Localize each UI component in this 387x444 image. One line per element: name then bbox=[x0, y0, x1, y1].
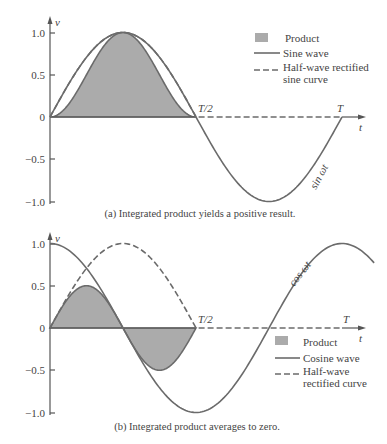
y-tick-0: 0 bbox=[40, 111, 46, 123]
x-tick-full: T bbox=[337, 102, 344, 114]
y-axis-label: v bbox=[55, 16, 60, 28]
x-axis-label: t bbox=[359, 332, 363, 344]
legend-product-label: Product bbox=[303, 336, 337, 348]
product-area bbox=[50, 33, 196, 118]
legend-product-label: Product bbox=[285, 32, 319, 44]
y-tick-0.5: 0.5 bbox=[31, 69, 45, 81]
y-axis-label: v bbox=[55, 232, 60, 244]
legend-dashed-label-2: rectified curve bbox=[303, 377, 367, 389]
y-tick-neg-1: −1.0 bbox=[25, 196, 45, 208]
curve-label: sin ωt bbox=[307, 161, 330, 191]
y-tick-neg-1: −1.0 bbox=[25, 407, 45, 419]
y-tick-1: 1.0 bbox=[31, 27, 45, 39]
x-tick-half: T/2 bbox=[198, 313, 213, 325]
caption-b: (b) Integrated product averages to zero. bbox=[114, 421, 280, 433]
legend-solid-label: Sine wave bbox=[283, 47, 329, 59]
legend-product-swatch bbox=[275, 336, 288, 345]
caption-a: (a) Integrated product yields a positive… bbox=[105, 208, 296, 220]
legend-product-swatch bbox=[255, 33, 268, 42]
y-tick-neg-0.5: −0.5 bbox=[25, 153, 45, 165]
legend-dashed-label: Half-wave bbox=[303, 365, 350, 377]
x-axis-arrow-icon bbox=[358, 115, 366, 120]
legend-solid-label: Cosine wave bbox=[303, 352, 360, 364]
y-axis-arrow-icon bbox=[48, 16, 53, 24]
legend-dashed-label-2: sine curve bbox=[283, 73, 328, 85]
y-tick-neg-0.5: −0.5 bbox=[25, 364, 45, 376]
y-tick-1: 1.0 bbox=[31, 238, 45, 250]
panel-b: 1.0 0.5 0 −0.5 −1.0 v t T/2 T cos ωt Pro… bbox=[25, 232, 374, 433]
y-tick-0: 0 bbox=[40, 322, 46, 334]
x-tick-half: T/2 bbox=[198, 102, 213, 114]
figure: 1.0 0.5 0 −0.5 −1.0 v t T/2 T sin ωt Pro… bbox=[0, 0, 387, 444]
y-tick-0.5: 0.5 bbox=[31, 280, 45, 292]
panel-a: 1.0 0.5 0 −0.5 −1.0 v t T/2 T sin ωt Pro… bbox=[25, 16, 369, 220]
legend-dashed-label: Half-wave rectified bbox=[283, 61, 369, 73]
x-tick-full: T bbox=[343, 313, 350, 325]
y-axis-arrow-icon bbox=[48, 232, 53, 240]
x-axis-arrow-icon bbox=[358, 326, 366, 331]
x-axis-label: t bbox=[359, 121, 363, 133]
